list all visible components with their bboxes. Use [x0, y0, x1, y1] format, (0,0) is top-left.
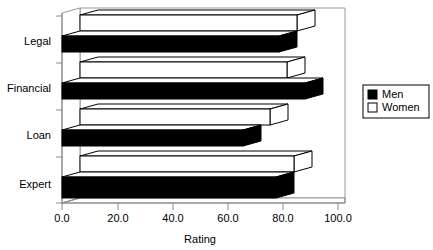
bar-men-expert-face [62, 177, 276, 198]
x-tick-label-0: 0.0 [54, 212, 69, 224]
x-tick-label-5: 100.0 [324, 212, 352, 224]
legend-label-men: Men [382, 88, 403, 100]
x-tick-label-1: 20.0 [107, 212, 128, 224]
y-tick-label-loan: Loan [27, 129, 51, 141]
bar-men-financial-top [62, 78, 323, 83]
bar-women-expert-face [80, 156, 294, 172]
bar-women-loan-top [80, 104, 288, 109]
chart-canvas: 0.0 20.0 40.0 60.0 80.0 100.0 Legal Fina… [0, 0, 433, 250]
bar-women-legal-face [80, 15, 297, 31]
legend-label-women: Women [382, 101, 420, 113]
bar-men-loan-top [62, 125, 261, 130]
bar-group-legal [62, 10, 315, 52]
bar-men-expert-top [62, 172, 294, 177]
bar-group-financial [62, 57, 323, 99]
y-axis-ticks [56, 16, 62, 203]
bar-women-financial-face [80, 62, 287, 78]
bar-men-loan-face [62, 130, 243, 146]
x-tick-label-2: 40.0 [162, 212, 183, 224]
bar-group-expert [62, 151, 312, 198]
y-tick-label-legal: Legal [24, 35, 51, 47]
bar-women-loan-face [80, 109, 270, 125]
y-tick-label-expert: Expert [19, 178, 51, 190]
x-tick-label-3: 60.0 [217, 212, 238, 224]
bar-women-financial-top [80, 57, 305, 62]
bar-chart: 0.0 20.0 40.0 60.0 80.0 100.0 Legal Fina… [0, 0, 433, 250]
bar-men-legal-face [62, 36, 279, 52]
x-tick-label-4: 80.0 [272, 212, 293, 224]
bar-women-expert-top [80, 151, 312, 156]
x-axis-title: Rating [184, 233, 216, 245]
bar-men-financial-face [62, 83, 305, 99]
legend: Men Women [363, 85, 429, 118]
bar-men-expert-side [276, 172, 294, 198]
x-axis-ticks [62, 203, 338, 210]
bar-group-loan [62, 104, 288, 146]
legend-swatch-women [368, 103, 377, 112]
bar-women-legal-top [80, 10, 315, 15]
bar-men-legal-top [62, 31, 297, 36]
y-tick-label-financial: Financial [7, 82, 51, 94]
legend-swatch-men [368, 90, 377, 99]
